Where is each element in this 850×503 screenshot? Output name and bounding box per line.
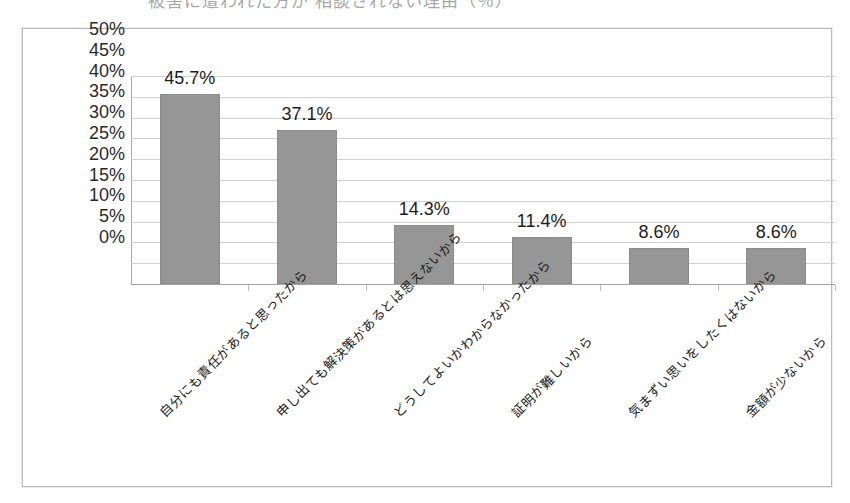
gridline: [131, 263, 835, 264]
value-axis-tick-label: 25%: [29, 123, 125, 144]
bar-value-label: 37.1%: [281, 104, 332, 125]
gridline: [131, 76, 835, 77]
value-axis-tick-label: 0%: [29, 227, 125, 248]
category-axis-tick: [835, 285, 836, 291]
gridline: [131, 118, 835, 119]
gridline: [131, 201, 835, 202]
document-title-strip: 被害に遭われた方が 相談されない理由（％）: [0, 0, 850, 14]
gridline: [131, 138, 835, 139]
category-axis-tick: [718, 285, 719, 291]
bar[interactable]: [629, 248, 689, 284]
value-axis-tick-label: 35%: [29, 81, 125, 102]
value-axis-tick-label: 40%: [29, 60, 125, 81]
value-axis-tick-label: 15%: [29, 164, 125, 185]
plot-area: 45.7%37.1%14.3%11.4%8.6%8.6%: [131, 76, 835, 284]
gridline: [131, 180, 835, 181]
gridline: [131, 222, 835, 223]
category-axis-tick: [483, 285, 484, 291]
chart-frame: 50%45%40%35%30%25%20%15%10%5%0% 45.7%37.…: [22, 28, 832, 487]
value-axis-tick-label: 45%: [29, 39, 125, 60]
bar-value-label: 8.6%: [638, 222, 679, 243]
gridline: [131, 242, 835, 243]
value-axis-tick-label: 30%: [29, 102, 125, 123]
category-axis-tick: [366, 285, 367, 291]
category-axis-tick: [600, 285, 601, 291]
page-title: 被害に遭われた方が 相談されない理由（％）: [148, 0, 513, 12]
bar[interactable]: [277, 130, 337, 284]
value-axis-labels: 50%45%40%35%30%25%20%15%10%5%0%: [23, 29, 125, 486]
value-axis-tick-label: 5%: [29, 206, 125, 227]
category-axis-tick: [248, 285, 249, 291]
bar-value-label: 8.6%: [756, 222, 797, 243]
value-axis-tick-label: 50%: [29, 19, 125, 40]
value-axis-tick-label: 10%: [29, 185, 125, 206]
bar-value-label: 11.4%: [517, 211, 567, 232]
bar-value-label: 45.7%: [164, 68, 215, 89]
category-axis-label: 証明が難しいから: [506, 331, 596, 421]
value-axis-tick-label: 20%: [29, 143, 125, 164]
gridline: [131, 97, 835, 98]
bar-value-label: 14.3%: [399, 199, 450, 220]
bar[interactable]: [160, 94, 220, 284]
category-axis-label: 金額が少ないから: [741, 331, 831, 421]
gridline: [131, 159, 835, 160]
